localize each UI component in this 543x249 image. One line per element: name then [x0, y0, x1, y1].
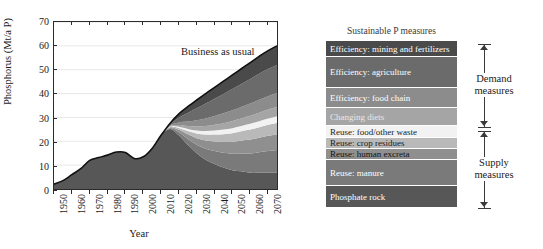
y-tick-mark	[53, 45, 57, 46]
x-tick-label: 2020	[183, 194, 194, 214]
x-tick-mark-top	[196, 21, 197, 25]
x-tick-mark-top	[107, 21, 108, 25]
legend-band-label: Efficiency: agriculture	[330, 67, 411, 77]
y-tick-mark	[53, 118, 57, 119]
x-tick-label: 2040	[219, 194, 230, 214]
x-tick-mark	[160, 190, 161, 194]
y-tick-mark	[53, 21, 57, 22]
x-tick-label: 1980	[112, 194, 123, 214]
x-tick-mark-top	[249, 21, 250, 25]
x-tick-mark-top	[160, 21, 161, 25]
legend-band-reuse-crop-residues[interactable]: Reuse: crop residues	[326, 138, 457, 149]
bracket-arrow-down	[480, 121, 488, 126]
x-tick-label: 2010	[165, 194, 176, 214]
x-tick-mark	[71, 190, 72, 194]
x-tick-mark-top	[142, 21, 143, 25]
legend-band-label: Changing diets	[330, 112, 384, 122]
x-tick-mark-top	[231, 21, 232, 25]
legend-band-label: Reuse: crop residues	[330, 138, 404, 148]
x-tick-mark	[267, 190, 268, 194]
x-tick-label: 2050	[236, 194, 247, 214]
bracket-arrow-up	[480, 132, 488, 137]
legend-band-changing-diets[interactable]: Changing diets	[326, 108, 457, 126]
bracket-cap	[478, 208, 491, 209]
x-tick-mark	[196, 190, 197, 194]
legend-title: Sustainable P measures	[326, 26, 457, 36]
x-tick-label: 1960	[76, 194, 87, 214]
legend-band-reuse-manure[interactable]: Reuse: manure	[326, 160, 457, 186]
x-tick-mark-top	[178, 21, 179, 25]
x-tick-mark	[107, 190, 108, 194]
x-tick-mark	[142, 190, 143, 194]
x-tick-label: 2000	[147, 194, 158, 214]
legend-band-label: Efficiency: food chain	[330, 93, 410, 103]
x-tick-label: 2060	[254, 194, 265, 214]
bracket-label: Supplymeasures	[457, 157, 531, 181]
legend-band-label: Phosphate rock	[330, 192, 385, 202]
legend-band-label: Reuse: food/other waste	[330, 127, 417, 137]
x-tick-mark	[249, 190, 250, 194]
x-tick-mark	[89, 190, 90, 194]
bracket-arrow-up	[480, 45, 488, 50]
x-axis-title: Year	[0, 228, 278, 239]
legend-band-label: Efficiency: mining and fertilizers	[330, 44, 450, 54]
x-tick-label: 1990	[129, 194, 140, 214]
bracket-label-line2: measures	[457, 169, 531, 181]
legend-band-label: Reuse: manure	[330, 168, 384, 178]
x-tick-label: 2030	[201, 194, 212, 214]
legend-band-efficiency-food-chain[interactable]: Efficiency: food chain	[326, 88, 457, 108]
legend-band-efficiency-agriculture[interactable]: Efficiency: agriculture	[326, 57, 457, 88]
x-tick-mark-top	[71, 21, 72, 25]
x-tick-mark	[178, 190, 179, 194]
x-tick-mark-top	[124, 21, 125, 25]
bracket-cap	[478, 127, 491, 128]
legend: Efficiency: mining and fertilizersEffici…	[326, 41, 457, 208]
legend-band-reuse-human-excreta[interactable]: Reuse: human excreta	[326, 149, 457, 160]
y-tick-mark	[53, 93, 57, 94]
bracket-label-line1: Supply	[457, 157, 531, 169]
bracket-arrow-down	[480, 202, 488, 207]
legend-band-reuse-food-other-waste[interactable]: Reuse: food/other waste	[326, 126, 457, 138]
bracket-label: Demandmeasures	[457, 73, 531, 97]
x-tick-mark-top	[214, 21, 215, 25]
y-tick-mark	[53, 142, 57, 143]
x-tick-label: 1970	[94, 194, 105, 214]
bracket-group: DemandmeasuresSupplymeasures	[457, 0, 543, 249]
x-tick-label: 2070	[272, 194, 283, 214]
phosphorus-stacked-area-figure: Phosphorus (Mt/a P) 706050403020100 Busi…	[0, 0, 543, 249]
bracket-label-line1: Demand	[457, 73, 531, 85]
y-tick-mark	[53, 190, 57, 191]
legend-band-efficiency-mining-and-fertilizers[interactable]: Efficiency: mining and fertilizers	[326, 41, 457, 57]
x-tick-mark-top	[267, 21, 268, 25]
bracket-label-line2: measures	[457, 85, 531, 97]
y-tick-mark	[53, 166, 57, 167]
x-tick-mark	[231, 190, 232, 194]
x-tick-mark	[124, 190, 125, 194]
x-tick-mark	[214, 190, 215, 194]
x-tick-mark-top	[89, 21, 90, 25]
x-tick-label: 1950	[58, 194, 69, 214]
legend-band-label: Reuse: human excreta	[330, 149, 409, 159]
y-tick-mark	[53, 69, 57, 70]
legend-band-phosphate-rock[interactable]: Phosphate rock	[326, 186, 457, 208]
